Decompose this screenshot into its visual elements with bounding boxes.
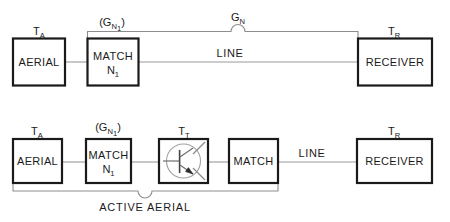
figure-canvas: TA (GN1) GN TR LINE AERIAL MATCH N1 RECE…: [0, 0, 450, 222]
bottom-aerial-temperature-label: TA: [31, 125, 44, 140]
bottom-transistor-temperature-label: TT: [178, 125, 190, 140]
top-diagram-group: TA (GN1) GN TR LINE AERIAL MATCH N1 RECE…: [13, 11, 432, 86]
bottom-match2-box-label: MATCH: [234, 155, 274, 167]
top-match-box-label: MATCH: [93, 50, 133, 62]
top-match-box: [88, 39, 139, 86]
top-aerial-box-label: AERIAL: [19, 56, 60, 68]
top-receiver-box-label: RECEIVER: [366, 56, 425, 68]
top-line-label: LINE: [217, 47, 244, 59]
bottom-line-label: LINE: [299, 147, 326, 159]
active-aerial-bracket-label: ACTIVE AERIAL: [99, 201, 191, 213]
bottom-receiver-box-label: RECEIVER: [365, 155, 424, 167]
block-diagram: TA (GN1) GN TR LINE AERIAL MATCH N1 RECE…: [0, 0, 450, 222]
bottom-aerial-box-label: AERIAL: [17, 155, 58, 167]
bottom-match1-box: [86, 139, 131, 183]
bottom-diagram-group: TA (GN1) TT TR LINE AERIAL MATCH N1: [13, 121, 432, 213]
top-match-gain-label: (GN1): [99, 16, 125, 33]
top-gain-bracket: [88, 25, 359, 39]
bottom-match1-box-label: MATCH: [89, 149, 129, 161]
active-aerial-bracket: [13, 184, 278, 198]
bottom-receiver-temperature-label: TR: [388, 125, 401, 140]
top-overall-gain-label: GN: [231, 11, 245, 26]
bottom-match-gain-label: (GN1): [95, 121, 121, 138]
